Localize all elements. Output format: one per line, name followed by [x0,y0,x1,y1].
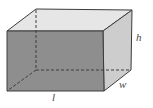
rectangular-prism-diagram: h w l [0,0,153,108]
length-label: l [52,92,55,103]
front-face [7,31,104,91]
height-label: h [136,32,142,43]
prism-drawing [0,0,153,108]
width-label: w [119,79,126,90]
